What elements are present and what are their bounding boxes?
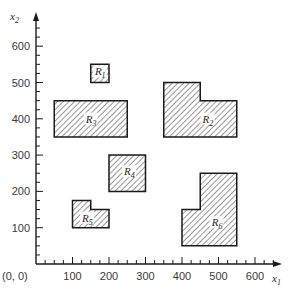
region-r1: R1 bbox=[91, 64, 109, 82]
y-tick-label: 500 bbox=[12, 77, 30, 89]
region-diagram: R1R2R3R4R5R6 100200300400500600100200300… bbox=[0, 0, 288, 298]
region-r5: R5 bbox=[73, 200, 110, 227]
x-axis-label: x1 bbox=[271, 272, 281, 287]
y-axis-label: x2 bbox=[9, 10, 19, 25]
x-axis-arrow-icon bbox=[273, 261, 282, 267]
region-r4: R4 bbox=[109, 155, 146, 191]
y-tick-label: 200 bbox=[12, 185, 30, 197]
origin-label: (0, 0) bbox=[2, 270, 28, 282]
y-tick-label: 600 bbox=[12, 40, 30, 52]
axes: 100200300400500600100200300400500600 (0,… bbox=[2, 10, 282, 287]
region-r6: R6 bbox=[182, 173, 237, 246]
y-tick-label: 300 bbox=[12, 149, 30, 161]
x-tick-label: 100 bbox=[63, 270, 81, 282]
x-tick-label: 200 bbox=[100, 270, 118, 282]
y-axis-arrow-icon bbox=[33, 12, 39, 21]
region-shape bbox=[182, 173, 237, 246]
x-tick-label: 300 bbox=[136, 270, 154, 282]
regions: R1R2R3R4R5R6 bbox=[54, 64, 237, 246]
x-tick-label: 500 bbox=[209, 270, 227, 282]
region-r2: R2 bbox=[164, 83, 237, 137]
x-tick-label: 600 bbox=[246, 270, 264, 282]
region-shape bbox=[164, 83, 237, 137]
y-tick-label: 100 bbox=[12, 222, 30, 234]
y-tick-label: 400 bbox=[12, 113, 30, 125]
region-r3: R3 bbox=[54, 101, 127, 137]
x-tick-label: 400 bbox=[173, 270, 191, 282]
